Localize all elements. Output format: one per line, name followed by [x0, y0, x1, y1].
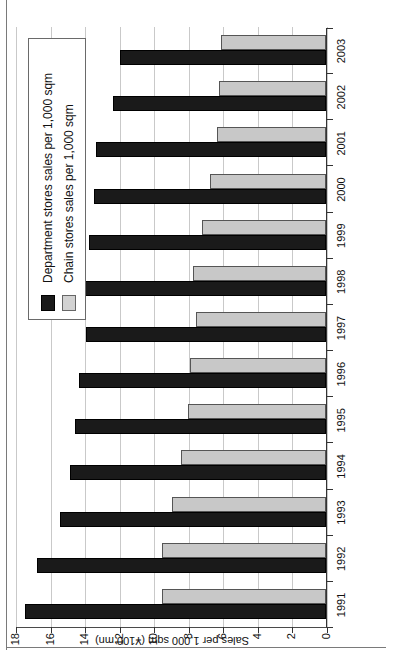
- legend-label-chain: Chain stores sales per 1,000 sqm: [63, 104, 76, 283]
- x-axis-category: 1991: [327, 582, 387, 628]
- legend-swatch-chain-icon: [62, 295, 76, 311]
- x-axis-category: 1995: [327, 397, 387, 443]
- x-axis-category: 1996: [327, 351, 387, 397]
- bar-department-stores: [81, 281, 326, 296]
- bar-department-stores: [113, 96, 326, 111]
- x-axis-tick-label: 2000: [336, 166, 347, 212]
- bar-department-stores: [120, 50, 326, 65]
- x-axis-tick: [327, 489, 333, 490]
- x-axis-tick-label: 1995: [336, 397, 347, 443]
- bar-chain-stores: [210, 174, 326, 189]
- x-axis-tick: [327, 119, 333, 120]
- x-axis-tick-label: 1999: [336, 213, 347, 259]
- x-axis-tick-label: 2003: [336, 28, 347, 74]
- bar-group: [16, 535, 326, 581]
- bar-department-stores: [79, 373, 326, 388]
- y-axis-tick: [292, 627, 293, 633]
- x-axis-tick: [327, 73, 333, 74]
- y-axis-tick: [258, 627, 259, 633]
- x-axis-tick: [327, 165, 333, 166]
- y-axis-title-holder: Sales per 1,000 sqm (¥100 mn): [16, 634, 327, 648]
- x-axis-tick: [327, 212, 333, 213]
- x-axis-tick-label: 2002: [336, 74, 347, 120]
- x-axis-tick: [327, 28, 333, 29]
- x-axis-tick: [327, 304, 333, 305]
- bar-department-stores: [94, 189, 326, 204]
- x-axis-category: 2003: [327, 28, 387, 74]
- bar-group: [16, 350, 326, 396]
- y-axis-tick: [154, 627, 155, 633]
- bar-group: [16, 489, 326, 535]
- x-axis-tick: [327, 258, 333, 259]
- bar-department-stores: [89, 235, 326, 250]
- bar-chain-stores: [162, 589, 326, 604]
- x-axis-tick: [327, 627, 333, 628]
- x-axis-tick: [327, 535, 333, 536]
- bar-department-stores: [96, 142, 326, 157]
- x-axis-category: 1992: [327, 536, 387, 582]
- legend-swatch-department-icon: [41, 295, 55, 311]
- x-axis-tick-label: 1996: [336, 351, 347, 397]
- x-axis-category: 1993: [327, 490, 387, 536]
- x-axis-tick-label: 1997: [336, 305, 347, 351]
- y-axis-tick: [51, 627, 52, 633]
- x-axis-tick-label: 1991: [336, 582, 347, 628]
- bar-department-stores: [25, 604, 326, 619]
- x-axis-tick: [327, 396, 333, 397]
- y-axis-tick: [85, 627, 86, 633]
- x-axis-tick-label: 1993: [336, 490, 347, 536]
- chart-legend: Department stores sales per 1,000 sqm Ch…: [28, 38, 86, 320]
- y-axis-tick: [120, 627, 121, 633]
- bar-department-stores: [70, 465, 326, 480]
- bar-chain-stores: [219, 81, 326, 96]
- x-axis-category: 1999: [327, 213, 387, 259]
- bar-chain-stores: [217, 127, 326, 142]
- x-axis-category: 2000: [327, 166, 387, 212]
- y-axis-tick: [223, 627, 224, 633]
- bar-department-stores: [37, 558, 326, 573]
- x-axis-category: 2002: [327, 74, 387, 120]
- figure-border-top: [6, 0, 7, 650]
- x-axis-tick-label: 1992: [336, 536, 347, 582]
- bar-chain-stores: [188, 404, 326, 419]
- bar-department-stores: [86, 327, 326, 342]
- bar-chain-stores: [172, 497, 326, 512]
- x-axis: 1991199219931994199519961997199819992000…: [327, 28, 387, 628]
- bar-chain-stores: [162, 543, 326, 558]
- x-axis-tick-label: 1994: [336, 443, 347, 489]
- legend-label-department: Department stores sales per 1,000 sqm: [42, 73, 55, 283]
- legend-item-department: Department stores sales per 1,000 sqm: [41, 49, 55, 311]
- x-axis-tick-label: 2001: [336, 120, 347, 166]
- bar-group: [16, 396, 326, 442]
- chart-figure: Sales per 1,000 sqm (¥100 mn) 0246810121…: [0, 0, 410, 650]
- bar-group: [16, 581, 326, 627]
- y-axis-tick: [16, 627, 17, 633]
- bar-chain-stores: [202, 220, 326, 235]
- x-axis-category: 1998: [327, 259, 387, 305]
- bar-chain-stores: [221, 35, 326, 50]
- bar-department-stores: [75, 419, 326, 434]
- bar-chain-stores: [193, 266, 326, 281]
- bar-department-stores: [60, 512, 326, 527]
- y-axis-tick: [189, 627, 190, 633]
- x-axis-tick: [327, 442, 333, 443]
- y-axis-title: Sales per 1,000 sqm (¥100 mn): [94, 635, 248, 647]
- x-axis-tick-label: 1998: [336, 259, 347, 305]
- rotated-chart-container: Sales per 1,000 sqm (¥100 mn) 0246810121…: [0, 0, 410, 650]
- bar-chain-stores: [190, 358, 326, 373]
- bar-chain-stores: [196, 312, 326, 327]
- x-axis-tick: [327, 581, 333, 582]
- bar-chain-stores: [181, 450, 326, 465]
- x-axis-tick: [327, 350, 333, 351]
- bar-group: [16, 442, 326, 488]
- x-axis-category: 1997: [327, 305, 387, 351]
- x-axis-category: 1994: [327, 443, 387, 489]
- x-axis-category: 2001: [327, 120, 387, 166]
- legend-item-chain: Chain stores sales per 1,000 sqm: [62, 49, 76, 311]
